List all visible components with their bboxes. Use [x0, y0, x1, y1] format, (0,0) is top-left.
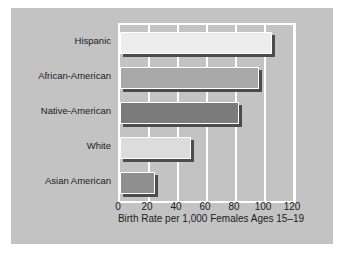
chart-panel: Hispanic African-American Native-America…	[11, 8, 333, 244]
bar[interactable]	[120, 32, 272, 54]
category-label: Native-American	[11, 105, 111, 116]
category-label: White	[11, 140, 111, 151]
x-tick-label: 20	[132, 201, 162, 212]
x-tick-label: 40	[161, 201, 191, 212]
category-label: Hispanic	[11, 35, 111, 46]
x-tick-label: 80	[219, 201, 249, 212]
bar[interactable]	[120, 172, 155, 194]
x-tick-label: 100	[248, 201, 278, 212]
bar[interactable]	[120, 137, 191, 159]
x-tick-label: 60	[190, 201, 220, 212]
bar[interactable]	[120, 102, 239, 124]
category-label: Asian American	[11, 175, 111, 186]
bar[interactable]	[120, 67, 259, 89]
plot-area	[118, 23, 296, 203]
category-axis-labels: Hispanic African-American Native-America…	[11, 23, 113, 199]
x-tick-label: 0	[103, 201, 133, 212]
gridline	[293, 25, 295, 201]
chart-figure: Hispanic African-American Native-America…	[0, 0, 344, 253]
x-tick-label: 120	[277, 201, 307, 212]
x-axis-title: Birth Rate per 1,000 Females Ages 15–19	[91, 213, 331, 224]
category-label: African-American	[11, 70, 111, 81]
